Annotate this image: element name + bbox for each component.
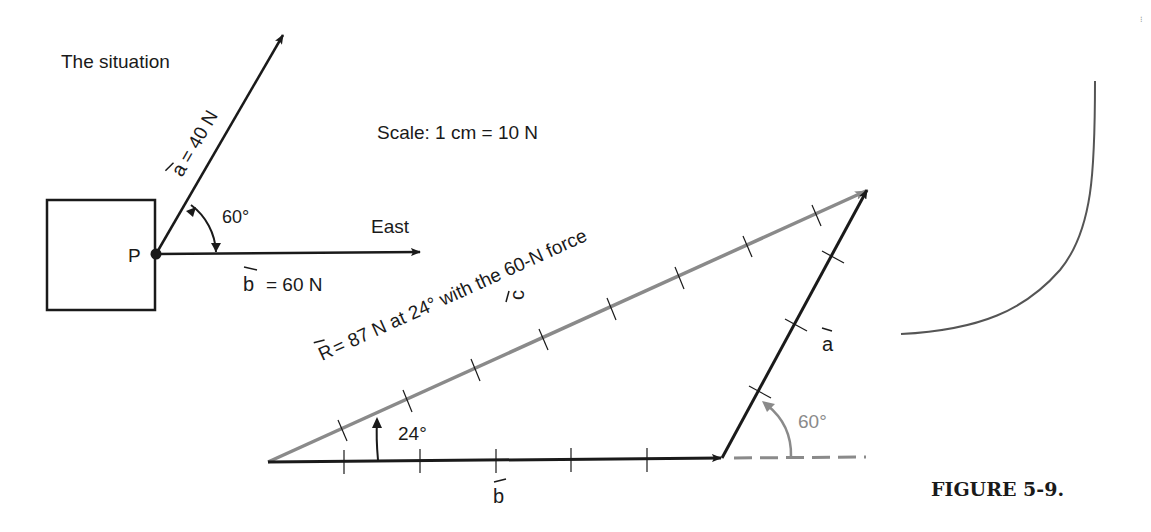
resultant-label: R = 87 N at 24° with the 60-N force [314, 222, 590, 365]
angle-60-arc [767, 405, 791, 457]
reference-dashed-line [734, 457, 866, 458]
figure-caption: FIGURE 5-9. [931, 478, 1064, 500]
triangle-vector-a-label: a [822, 328, 834, 355]
situation-title: The situation [61, 51, 170, 72]
margin-mark: ⁝ [1140, 15, 1143, 24]
point-p-label: P [128, 245, 141, 266]
angle-60-label: 60° [798, 411, 827, 432]
triangle-vector-b-label: b [493, 479, 506, 507]
vector-a-label: a = 40 N [165, 106, 221, 182]
svg-text:b: b [493, 485, 504, 507]
angle-arc-head-bottom [211, 243, 221, 252]
angle-24-label: 24° [398, 423, 427, 444]
vector-b-label: b = 60 N [243, 267, 323, 295]
svg-text:a: a [822, 333, 834, 355]
vector-diagram: The situation P 60° East b = 60 N a = 40… [0, 0, 1151, 532]
angle-24-arrowhead [372, 417, 382, 428]
east-label: East [371, 216, 410, 237]
scale-label: Scale: 1 cm = 10 N [377, 122, 538, 143]
svg-text:= 60 N: = 60 N [266, 274, 323, 295]
svg-text:c: c [506, 290, 528, 300]
situation-angle-label: 60° [222, 207, 249, 227]
curved-line [901, 81, 1095, 334]
point-p-dot [151, 249, 162, 260]
vector-triangle: 24° 60° b a c R = 87 N at 24° with the 6… [268, 190, 867, 507]
triangle-vector-b-arrow [268, 458, 721, 462]
svg-text:b: b [243, 273, 254, 295]
situation-panel: The situation P 60° East b = 60 N a = 40… [47, 35, 420, 310]
vector-a-tick-marks [749, 251, 844, 398]
angle-arc-head-top [186, 207, 196, 217]
vector-b-arrow [156, 252, 420, 254]
svg-text:= 40 N: = 40 N [175, 107, 221, 166]
svg-text:= 87 N at 24° with the 60-N fo: = 87 N at 24° with the 60-N force [330, 225, 590, 358]
vector-c-label: c [506, 290, 528, 302]
vector-a-arrow [156, 35, 283, 254]
